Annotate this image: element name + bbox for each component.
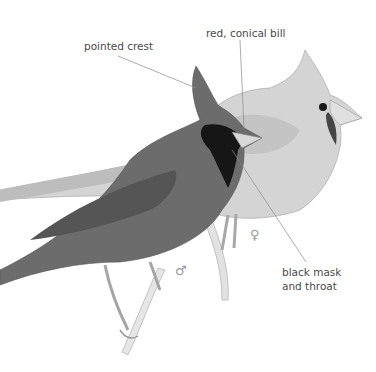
label-and-throat: and throat	[282, 280, 337, 292]
label-pointed-crest: pointed crest	[84, 40, 153, 52]
label-black-mask: black mask	[282, 266, 341, 278]
female-symbol-icon: ♀	[250, 228, 260, 241]
male-symbol-icon: ♂	[175, 264, 187, 277]
female-eye	[319, 103, 327, 111]
bird-drawing	[0, 0, 376, 372]
label-conical-bill: red, conical bill	[206, 27, 286, 39]
branch-lower	[122, 268, 165, 355]
leader-line-crest	[118, 56, 196, 88]
cardinal-illustration: pointed crest red, conical bill black ma…	[0, 0, 376, 372]
